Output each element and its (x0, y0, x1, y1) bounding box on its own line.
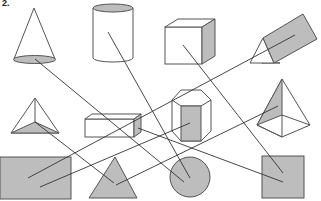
line-prism-rectangle (28, 35, 295, 178)
matching-diagram: 2. (0, 0, 321, 201)
tetrahedron-solid (11, 98, 59, 133)
cone-solid (14, 8, 56, 64)
square-pyramid-solid (257, 79, 310, 137)
cube-solid (165, 19, 215, 64)
cylinder-solid (93, 4, 133, 62)
circle-shape (170, 157, 210, 197)
cuboid-solid (85, 114, 141, 137)
diagram-canvas (0, 0, 321, 201)
triangular-prism-solid (250, 14, 317, 63)
